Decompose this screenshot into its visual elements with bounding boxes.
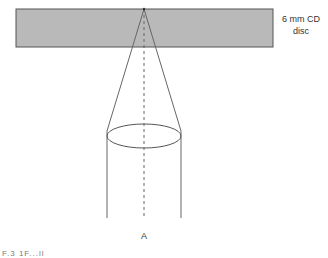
focus-point — [143, 8, 145, 10]
disc-label-line1: 6 mm CD — [278, 13, 324, 25]
point-a-label: A — [139, 231, 149, 241]
figure-caption-fragment: F.3 1F...ll — [2, 249, 45, 258]
disc-label-line2: disc — [278, 25, 324, 37]
disc-label: 6 mm CD disc — [278, 13, 324, 37]
